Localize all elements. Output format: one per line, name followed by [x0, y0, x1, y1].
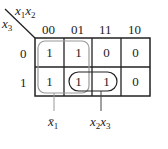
kmap-cell: 0 [121, 67, 150, 96]
col-header: 11 [99, 23, 112, 36]
row-header: 0 [20, 47, 27, 60]
kmap-cell: 1 [35, 38, 64, 67]
kmap-cell: 1 [92, 67, 121, 96]
col-header: 10 [128, 23, 141, 36]
col-header: 00 [42, 23, 55, 36]
kmap-cell: 1 [35, 67, 64, 96]
kmap-cell: 1 [64, 67, 93, 96]
col-var-label: x1x2 [15, 4, 36, 20]
group-label-x1bar: x̄1 [48, 115, 58, 131]
row-header: 1 [20, 76, 27, 89]
kmap-cell: 0 [121, 38, 150, 67]
col-header: 01 [71, 23, 84, 36]
group-label-x2x3: x2x3 [90, 115, 111, 131]
kmap-cell: 0 [92, 38, 121, 67]
row-var-label: x3 [2, 17, 12, 33]
kmap-cell: 1 [64, 38, 93, 67]
